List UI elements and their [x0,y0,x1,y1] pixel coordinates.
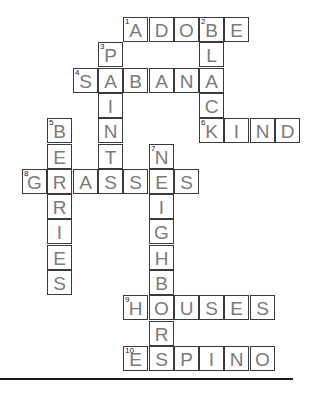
cell-letter: A [99,71,122,92]
crossword-cell[interactable]: R [47,194,72,219]
crossword-cell[interactable]: P [174,346,199,371]
bottom-divider-line [0,378,293,380]
crossword-cell[interactable]: I [149,194,174,219]
cell-letter: S [251,298,274,319]
cell-letter: E [225,20,248,41]
crossword-cell[interactable]: 4S [73,68,98,93]
crossword-cell[interactable]: S [250,295,275,320]
cell-letter: S [175,172,198,193]
crossword-cell[interactable]: I [47,219,72,244]
crossword-cell[interactable]: O [149,295,174,320]
cell-letter: A [200,71,223,92]
crossword-cell[interactable]: E [47,245,72,270]
crossword-cell[interactable]: S [199,295,224,320]
crossword-cell[interactable]: N [224,346,249,371]
cell-letter: R [48,172,71,193]
cell-letter: L [200,45,223,66]
cell-letter: I [99,96,122,117]
crossword-cell[interactable]: S [98,169,123,194]
crossword-cell[interactable]: A [149,68,174,93]
cell-letter: S [74,71,97,92]
crossword-cell[interactable]: C [199,93,224,118]
crossword-cell[interactable]: D [149,17,174,42]
crossword-cell[interactable]: 9H [123,295,148,320]
cell-letter: O [175,20,198,41]
crossword-cell[interactable]: I [199,346,224,371]
cell-letter: A [124,20,147,41]
crossword-cell[interactable]: S [174,169,199,194]
cell-letter: E [48,248,71,269]
crossword-cell[interactable]: 3P [98,42,123,67]
crossword-cell[interactable]: S [149,346,174,371]
cell-letter: I [225,121,248,142]
cell-letter: N [150,147,173,168]
crossword-cell[interactable]: T [98,144,123,169]
cell-letter: N [99,121,122,142]
crossword-cell[interactable]: 5B [47,118,72,143]
cell-letter: K [200,121,223,142]
cell-letter: E [150,172,173,193]
cell-letter: G [150,222,173,243]
cell-letter: B [124,71,147,92]
cell-letter: H [124,298,147,319]
crossword-cell[interactable]: E [224,17,249,42]
crossword-cell[interactable]: I [224,118,249,143]
crossword-cell[interactable]: 7N [149,144,174,169]
cell-letter: N [175,71,198,92]
crossword-cell[interactable]: H [149,245,174,270]
crossword-cell[interactable]: A [73,169,98,194]
crossword-cell[interactable]: N [174,68,199,93]
crossword-cell[interactable]: A [98,68,123,93]
cell-letter: E [48,147,71,168]
crossword-cell[interactable]: N [98,118,123,143]
crossword-cell[interactable]: 2B [199,17,224,42]
cell-letter: R [150,324,173,345]
crossword-cell[interactable]: B [123,68,148,93]
cell-letter: P [175,349,198,370]
cell-letter: S [124,172,147,193]
crossword-cell[interactable]: 8G [22,169,47,194]
cell-letter: S [200,298,223,319]
crossword-cell[interactable]: R [149,321,174,346]
crossword-cell[interactable]: R [47,169,72,194]
cell-letter: B [200,20,223,41]
crossword-cell[interactable]: N [250,118,275,143]
cell-letter: A [150,71,173,92]
crossword-cell[interactable]: I [98,93,123,118]
cell-letter: U [175,298,198,319]
crossword-cell[interactable]: 6K [199,118,224,143]
crossword-cell[interactable]: O [250,346,275,371]
cell-letter: I [48,222,71,243]
crossword-cell[interactable]: G [149,219,174,244]
crossword-cell[interactable]: E [47,144,72,169]
crossword-grid: 1ADO2BELAC6K3PAINT4SBAN5BERRIESIND7NEIGH… [0,0,329,393]
crossword-cell[interactable]: 10E [123,346,148,371]
cell-letter: I [150,197,173,218]
cell-letter: B [150,273,173,294]
cell-letter: O [150,298,173,319]
crossword-cell[interactable]: B [149,270,174,295]
cell-letter: E [225,298,248,319]
cell-letter: D [276,121,299,142]
cell-letter: S [99,172,122,193]
cell-letter: O [251,349,274,370]
cell-letter: H [150,248,173,269]
crossword-cell[interactable]: O [174,17,199,42]
crossword-cell[interactable]: S [47,270,72,295]
crossword-cell[interactable]: A [199,68,224,93]
cell-letter: P [99,45,122,66]
crossword-cell[interactable]: 1A [123,17,148,42]
cell-letter: S [48,273,71,294]
crossword-cell[interactable]: S [123,169,148,194]
cell-letter: I [200,349,223,370]
cell-letter: A [74,172,97,193]
crossword-cell[interactable]: E [149,169,174,194]
crossword-cell[interactable]: L [199,42,224,67]
crossword-cell[interactable]: D [275,118,300,143]
crossword-cell[interactable]: U [174,295,199,320]
cell-letter: N [225,349,248,370]
cell-letter: E [124,349,147,370]
cell-letter: R [48,197,71,218]
cell-letter: C [200,96,223,117]
crossword-cell[interactable]: E [224,295,249,320]
